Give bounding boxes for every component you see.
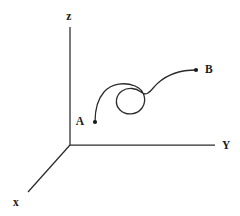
spiral-trajectory-path xyxy=(95,70,196,122)
point-a-label: A xyxy=(76,115,85,127)
x-axis-line xyxy=(28,145,70,192)
x-axis-label: x xyxy=(13,196,19,208)
point-b-marker xyxy=(194,68,198,72)
point-a-marker xyxy=(93,120,97,124)
z-axis-label: z xyxy=(66,10,71,22)
figure-canvas: z Y x A B xyxy=(0,0,240,216)
axes-spiral-figure: z Y x A B xyxy=(0,0,240,216)
point-b-label: B xyxy=(205,63,213,75)
y-axis-label: Y xyxy=(222,139,231,151)
